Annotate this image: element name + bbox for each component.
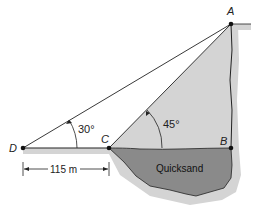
angle-arc-D [69, 120, 77, 148]
label-C: C [101, 133, 109, 145]
point-D [21, 146, 26, 151]
angle-label-C: 45° [163, 118, 180, 130]
point-A [229, 22, 234, 27]
dim-arrow-right [103, 167, 108, 171]
dim-arrow-left [24, 167, 29, 171]
survey-diagram: A B C D 30° 45° Quicksand 115 m [0, 0, 269, 210]
point-B [229, 146, 234, 151]
point-C [107, 146, 112, 151]
ground-shadow [23, 148, 111, 154]
label-D: D [9, 142, 17, 154]
label-A: A [226, 5, 234, 17]
label-B: B [220, 135, 227, 147]
dimension-label: 115 m [50, 164, 77, 175]
angle-label-D: 30° [78, 123, 95, 135]
quicksand-label: Quicksand [156, 163, 203, 174]
